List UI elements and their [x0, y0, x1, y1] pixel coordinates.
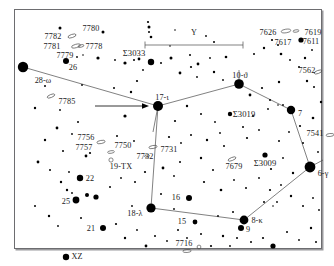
chart-label-7: 7	[298, 110, 302, 118]
star-21	[100, 225, 106, 231]
line-6g-8k	[244, 167, 310, 220]
chart-label-10: 10-ϑ	[232, 72, 247, 80]
chart-label-16: 16	[172, 194, 180, 202]
chart-label-7757: 7757	[76, 144, 93, 152]
chart-label-8: 8-κ	[251, 217, 262, 225]
chart-label-7782: 7782	[45, 33, 62, 41]
dso-7731	[149, 145, 158, 149]
chart-plot-area: 7782778077817778777926Σ3033Y762676197617…	[15, 10, 321, 248]
dso-7626	[281, 29, 291, 34]
chart-label-7541: 7541	[307, 130, 324, 138]
chart-label-7779: 7779	[57, 52, 74, 60]
dso-7716-circle	[197, 245, 201, 249]
dso-7716	[183, 249, 192, 253]
star-22	[77, 175, 83, 181]
chart-label-7617: 7617	[275, 39, 292, 47]
star-sigma3019	[228, 112, 232, 116]
chart-label-28: 28-ω	[35, 77, 52, 85]
line-8k-18l	[151, 208, 244, 220]
chart-label-7716: 7716	[176, 240, 193, 248]
dso-7619	[293, 29, 299, 32]
chart-label-19TX: 19-TX	[110, 163, 132, 171]
chart-label-7562: 7562	[299, 67, 316, 75]
chart-label-22: 22	[86, 175, 94, 183]
star-9	[238, 225, 244, 231]
chart-frame: 7782778077817778777926Σ3033Y762676197617…	[14, 9, 322, 249]
chart-label-3033: Σ3033	[123, 49, 146, 58]
chart-label-7781: 7781	[44, 43, 61, 51]
star-10-theta	[234, 79, 244, 89]
star-6-gamma	[305, 162, 316, 173]
chart-label-7619: 7619	[305, 29, 322, 37]
chart-label-XZ: XZ	[71, 253, 82, 261]
chart-label-7756: 7756	[78, 134, 95, 142]
line-28w-17i	[23, 67, 158, 106]
dso-7750	[107, 150, 114, 154]
chart-label-7778: 7778	[86, 43, 103, 51]
scale-bar	[145, 42, 243, 49]
line-17i-10th	[158, 84, 239, 106]
star-18-lambda	[146, 203, 155, 212]
chart-label-17: 17-ι	[155, 94, 169, 102]
chart-label-7732: 7732	[137, 153, 154, 161]
star-16	[186, 195, 192, 201]
chart-label-7750: 7750	[115, 142, 132, 150]
chart-label-3009: Σ3009	[254, 159, 277, 168]
chart-label-7679: 7679	[226, 163, 243, 171]
star-7	[287, 106, 295, 114]
chart-label-7611: 7611	[303, 38, 319, 46]
chart-label-18: 18-λ	[127, 210, 142, 218]
chart-label-7731: 7731	[161, 146, 178, 154]
star-8-kappa	[240, 216, 249, 225]
chart-label-21: 21	[87, 225, 95, 233]
target-arrow	[95, 103, 149, 109]
chart-label-7785: 7785	[59, 98, 76, 106]
star-sigma3033	[148, 59, 154, 65]
chart-label-7626: 7626	[260, 29, 277, 37]
dso-7782	[68, 33, 77, 39]
star-xz	[63, 254, 69, 260]
line-10th-7	[239, 84, 291, 110]
chart-label-7780: 7780	[83, 25, 100, 33]
chart-label-3019: Σ3019	[233, 110, 256, 119]
dso-7778	[78, 44, 84, 48]
dso-7785	[47, 93, 56, 99]
chart-label-26: 26	[69, 64, 77, 72]
chart-label-6: 6-γ	[318, 170, 329, 178]
line-7-6g	[291, 110, 310, 167]
dso-7541	[326, 133, 334, 137]
chart-label-15: 15	[178, 218, 186, 226]
dso-7781	[71, 43, 81, 49]
chart-label-25: 25	[62, 198, 70, 206]
star-28-omega	[18, 62, 28, 72]
star-17-iota	[153, 101, 163, 111]
star-chart-figure: 7782778077817778777926Σ3033Y762676197617…	[0, 0, 334, 266]
chart-label-Y: Y	[191, 29, 197, 37]
star-25	[73, 197, 80, 204]
star-15	[193, 220, 198, 225]
chart-label-9: 9	[246, 226, 250, 234]
dso-7756	[97, 140, 106, 145]
